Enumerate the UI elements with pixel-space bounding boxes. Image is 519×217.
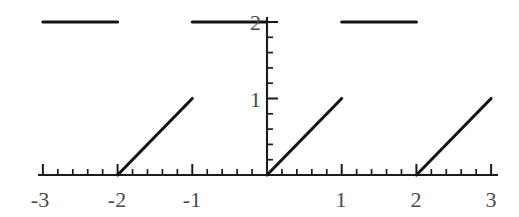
function-segment [118,99,193,176]
y-tick-label-1: 1 [250,87,261,112]
y-tick-label-2: 2 [250,10,261,35]
piecewise-function-figure: -3 -2 -1 1 2 3 1 2 [0,0,519,217]
x-tick-label-neg2: -2 [108,187,126,212]
function-segment [267,99,342,176]
x-tick-label-1: 1 [336,187,347,212]
plot-canvas: -3 -2 -1 1 2 3 1 2 [0,0,519,217]
x-tick-label-neg3: -3 [31,187,49,212]
function-segment [416,99,491,176]
x-tick-label-neg1: -1 [183,187,201,212]
axis-group [38,17,498,175]
y-axis-major-ticks [267,22,278,99]
x-tick-label-3: 3 [486,187,497,212]
x-tick-label-2: 2 [411,187,422,212]
